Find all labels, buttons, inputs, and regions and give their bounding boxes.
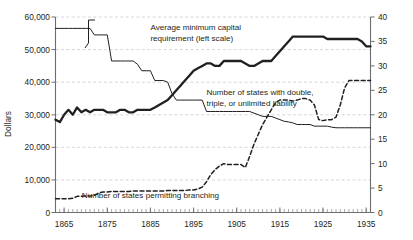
left-tick-label: 50,000 xyxy=(25,45,51,55)
x-tick-label: 1895 xyxy=(184,219,203,229)
capital-requirement-label-line-1: requirement (left scale) xyxy=(150,34,233,43)
x-tick-label: 1915 xyxy=(271,219,290,229)
x-tick-label: 1875 xyxy=(98,219,117,229)
left-tick-label: 10,000 xyxy=(25,175,51,185)
branching-label-line-0: Number of states permitting branching xyxy=(82,191,219,200)
left-tick-label: 60,000 xyxy=(25,12,51,22)
capital-requirement-label-line-0: Average minimum capital xyxy=(150,23,241,32)
right-tick-label: 40 xyxy=(378,12,388,22)
right-tick-label: 30 xyxy=(378,61,388,71)
x-tick-label: 1885 xyxy=(141,219,160,229)
x-tick-label: 1865 xyxy=(55,219,74,229)
right-tick-label: 25 xyxy=(378,85,388,95)
left-tick-label: 0 xyxy=(45,208,50,218)
branching-label: Number of states permitting branching xyxy=(82,191,219,200)
left-tick-label: 20,000 xyxy=(25,142,51,152)
x-tick-label: 1925 xyxy=(314,219,333,229)
chart-figure: 010,00020,00030,00040,00050,00060,000 05… xyxy=(0,0,413,240)
left-tick-label: 40,000 xyxy=(25,77,51,87)
right-tick-label: 5 xyxy=(378,183,383,193)
right-tick-label: 15 xyxy=(378,134,388,144)
x-tick-label: 1935 xyxy=(357,219,376,229)
double-liability-label-line-1: triple, or unlimited liability xyxy=(207,99,298,108)
capital-requirement-label: Average minimum capitalrequirement (left… xyxy=(150,23,241,43)
right-tick-label: 35 xyxy=(378,36,388,46)
right-tick-label: 20 xyxy=(378,110,388,120)
left-tick-label: 30,000 xyxy=(25,110,51,120)
line-chart: 010,00020,00030,00040,00050,00060,000 05… xyxy=(0,0,413,240)
right-tick-label: 10 xyxy=(378,159,388,169)
right-tick-label: 0 xyxy=(378,208,383,218)
x-tick-label: 1905 xyxy=(227,219,246,229)
double-liability-label-line-0: Number of states with double, xyxy=(207,88,314,97)
left-axis-title: Dollars xyxy=(3,111,13,137)
